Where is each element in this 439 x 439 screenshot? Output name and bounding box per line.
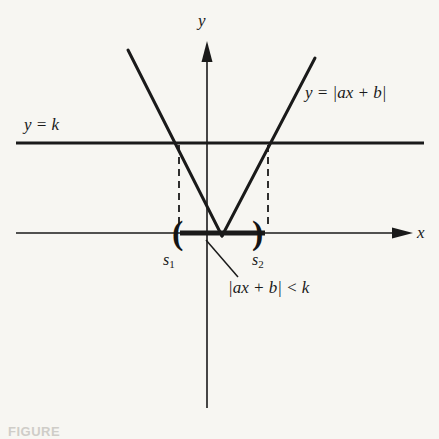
y-axis-arrowhead-icon <box>202 41 213 62</box>
curve-label-absolute-value: y = |ax + b| <box>305 84 386 101</box>
x-axis-arrowhead-icon <box>392 228 413 239</box>
interval-open-bracket-left: ( <box>172 216 183 250</box>
line-label-y-equals-k: y = k <box>24 116 59 133</box>
interval-endpoint-label-s2-subscript: 2 <box>258 258 264 270</box>
interval-endpoint-label-s2: s2 <box>252 252 264 270</box>
interval-endpoint-label-s1: s1 <box>163 252 175 270</box>
interval-open-bracket-right: ) <box>252 216 263 250</box>
inequality-annotation-label: |ax + b| < k <box>228 279 309 296</box>
interval-endpoint-label-s1-subscript: 1 <box>169 258 175 270</box>
figure-caption: FIGURE <box>8 424 60 439</box>
y-axis <box>202 41 213 408</box>
y-axis-label: y <box>198 12 206 29</box>
x-axis-label: x <box>417 224 425 241</box>
leader-line-inequality <box>206 240 238 277</box>
